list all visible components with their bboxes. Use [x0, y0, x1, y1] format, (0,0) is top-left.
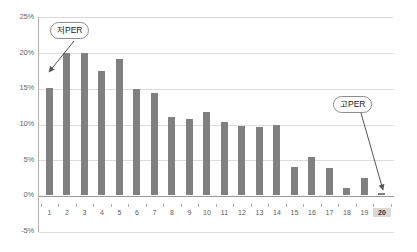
bar	[98, 71, 105, 195]
x-tick	[76, 204, 77, 207]
callout-high-per: 고PER	[333, 96, 372, 113]
bar	[46, 88, 53, 195]
x-axis: 1 2 3 4 5 6 7 8 9 10 11 12 13 14 15 16 1…	[38, 204, 393, 224]
x-tick-label: 6	[128, 208, 146, 217]
x-tick	[163, 204, 164, 207]
x-tick	[233, 204, 234, 207]
y-tick-label: 5%	[4, 156, 34, 164]
x-tick	[373, 204, 374, 207]
x-tick-label: 12	[233, 208, 251, 217]
x-tick-label: 19	[356, 208, 374, 217]
x-tick	[391, 204, 392, 207]
x-tick	[58, 204, 59, 207]
x-tick	[111, 204, 112, 207]
y-tick-label: 20%	[4, 49, 34, 57]
bar-series	[38, 17, 393, 232]
bar	[63, 53, 70, 195]
x-tick	[128, 204, 129, 207]
x-tick	[216, 204, 217, 207]
x-tick-label: 18	[338, 208, 356, 217]
y-tick-label: 0%	[4, 191, 34, 199]
x-tick-label: 9	[181, 208, 199, 217]
bar	[116, 59, 123, 195]
bar	[203, 112, 210, 195]
x-tick-label: 4	[93, 208, 111, 217]
x-tick	[146, 204, 147, 207]
y-tick-label: 10%	[4, 120, 34, 128]
bar	[256, 127, 263, 195]
x-tick	[321, 204, 322, 207]
bar	[361, 178, 368, 195]
x-tick	[303, 204, 304, 207]
x-tick	[356, 204, 357, 207]
bar	[343, 188, 350, 195]
x-tick	[286, 204, 287, 207]
x-tick-label-highlighted: 20	[373, 208, 391, 217]
x-tick	[181, 204, 182, 207]
x-tick-label: 10	[198, 208, 216, 217]
bar	[238, 126, 245, 195]
bar	[378, 193, 385, 195]
y-tick-label: -5%	[4, 227, 34, 235]
x-tick	[338, 204, 339, 207]
x-tick-label: 3	[76, 208, 94, 217]
x-tick-label: 1	[41, 208, 59, 217]
x-tick	[41, 204, 42, 207]
bar	[186, 119, 193, 195]
bar	[133, 89, 140, 196]
bar-chart: 25% 20% 15% 10% 5% 0% -5%	[0, 0, 417, 252]
y-tick-label: 25%	[4, 13, 34, 21]
callout-low-per: 저PER	[50, 22, 89, 39]
bar	[308, 157, 315, 195]
bar	[326, 168, 333, 195]
y-axis: 25% 20% 15% 10% 5% 0% -5%	[0, 17, 34, 232]
x-tick-label: 7	[146, 208, 164, 217]
bar	[151, 93, 158, 196]
x-tick-label: 16	[303, 208, 321, 217]
x-tick-label: 8	[163, 208, 181, 217]
bar	[168, 117, 175, 195]
bar	[221, 122, 228, 195]
x-tick-label: 15	[286, 208, 304, 217]
x-tick-label: 2	[58, 208, 76, 217]
x-tick-label: 17	[321, 208, 339, 217]
bar	[291, 167, 298, 195]
x-tick	[268, 204, 269, 207]
x-tick-label: 11	[216, 208, 234, 217]
bar	[273, 125, 280, 195]
x-tick-label: 14	[268, 208, 286, 217]
x-tick-label: 5	[111, 208, 129, 217]
y-tick-label: 15%	[4, 84, 34, 92]
x-tick	[93, 204, 94, 207]
gridline-minus5	[39, 232, 394, 233]
x-tick-label: 13	[251, 208, 269, 217]
x-tick	[251, 204, 252, 207]
bar	[81, 53, 88, 195]
x-tick	[198, 204, 199, 207]
